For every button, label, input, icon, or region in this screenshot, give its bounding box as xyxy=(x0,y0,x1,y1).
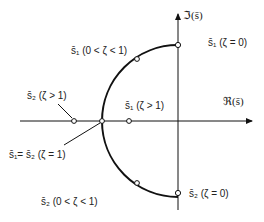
real-axis-label: ℜ(s̄) xyxy=(223,96,244,107)
label-s1-overdamped: s̄₁ (ζ > 1) xyxy=(125,100,164,111)
point-s1-undamped xyxy=(175,42,180,47)
point-s1-underdamped xyxy=(135,57,140,62)
label-s1-underdamped: s̄₁ (0 < ζ < 1) xyxy=(71,45,127,56)
label-s1-undamped: s̄₁ (ζ = 0) xyxy=(208,37,247,48)
label-s2-overdamped: s̄₂ (ζ > 1) xyxy=(27,90,67,101)
imag-axis-label: ℑ(s̄) xyxy=(183,10,203,21)
label-critical: s̄₁= s̄₂ (ζ = 1) xyxy=(9,149,66,160)
point-critical xyxy=(100,119,105,124)
point-s2-overdamped xyxy=(72,119,77,124)
point-s1-overdamped xyxy=(127,119,132,124)
leader-s2-overdamped xyxy=(58,104,72,118)
point-s2-undamped xyxy=(175,190,180,195)
label-s2-undamped: s̄₂ (ζ = 0) xyxy=(189,188,229,199)
leader-critical xyxy=(64,123,100,145)
label-s2-underdamped: s̄₂ (0 < ζ < 1) xyxy=(41,196,98,207)
point-s2-underdamped xyxy=(135,181,140,186)
